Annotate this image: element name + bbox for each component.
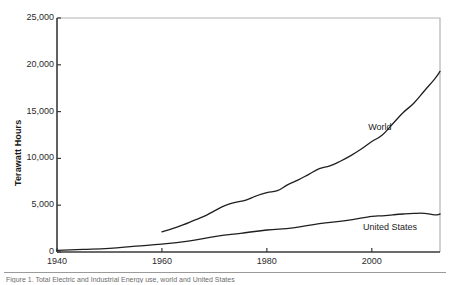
series-label-united-states: United States <box>363 222 417 232</box>
y-tick-label-text: 10,000 <box>26 152 54 162</box>
x-tick-label: 1940 <box>35 256 79 266</box>
y-tick-label-text: 15,000 <box>26 106 54 116</box>
figure-caption: Figure 1. Total Electric and Industrial … <box>6 276 446 283</box>
x-tick-label: 1980 <box>245 256 289 266</box>
x-tick-label: 1960 <box>140 256 184 266</box>
y-tick-label-text: 25,000 <box>26 12 54 22</box>
axis-ticks <box>57 18 372 252</box>
chart-figure: Terawatt Hours 05,00010,00015,00020,0002… <box>0 0 450 285</box>
y-tick-label: 15,000 <box>14 106 54 117</box>
y-tick-label: 10,000 <box>14 152 54 163</box>
y-tick-label-text: 20,000 <box>26 59 54 69</box>
plot-area <box>0 0 450 285</box>
y-tick-label: 25,000 <box>14 12 54 23</box>
y-tick-label: 20,000 <box>14 59 54 70</box>
y-tick-label-text: 0 <box>49 246 54 256</box>
caption-divider <box>4 272 446 273</box>
y-tick-label: 5,000 <box>14 199 54 210</box>
x-tick-label: 2000 <box>350 256 394 266</box>
y-tick-label-text: 5,000 <box>31 199 54 209</box>
series-label-world: World <box>368 122 391 132</box>
